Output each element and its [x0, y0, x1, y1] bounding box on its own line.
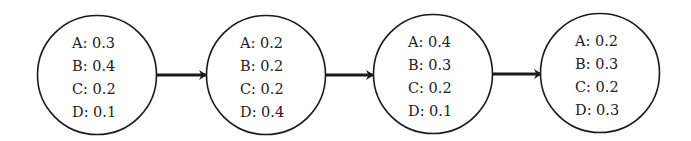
prob-d: D: 0.4: [240, 104, 284, 120]
prob-a: A: 0.3: [71, 35, 115, 51]
prob-c: C: 0.2: [72, 81, 116, 97]
markov-diagram: A: 0.3 B: 0.4 C: 0.2 D: 0.1 A: 0.2 B: 0.…: [0, 0, 691, 141]
prob-c: C: 0.2: [240, 81, 284, 97]
prob-a: A: 0.2: [239, 35, 283, 51]
prob-b: B: 0.3: [408, 57, 451, 73]
prob-b: B: 0.4: [72, 58, 115, 74]
prob-c: C: 0.2: [575, 79, 619, 95]
prob-a: A: 0.4: [407, 34, 451, 50]
prob-c: C: 0.2: [408, 80, 452, 96]
prob-b: B: 0.2: [240, 58, 283, 74]
state-node-1: A: 0.3 B: 0.4 C: 0.2 D: 0.1: [38, 16, 157, 135]
state-node-3: A: 0.4 B: 0.3 C: 0.2 D: 0.1: [374, 15, 493, 134]
state-node-4: A: 0.2 B: 0.3 C: 0.2 D: 0.3: [541, 14, 660, 133]
prob-a: A: 0.2: [574, 33, 618, 49]
prob-d: D: 0.3: [575, 102, 619, 118]
state-node-2: A: 0.2 B: 0.2 C: 0.2 D: 0.4: [207, 16, 326, 135]
prob-d: D: 0.1: [72, 104, 116, 120]
prob-d: D: 0.1: [408, 103, 452, 119]
prob-b: B: 0.3: [575, 56, 618, 72]
